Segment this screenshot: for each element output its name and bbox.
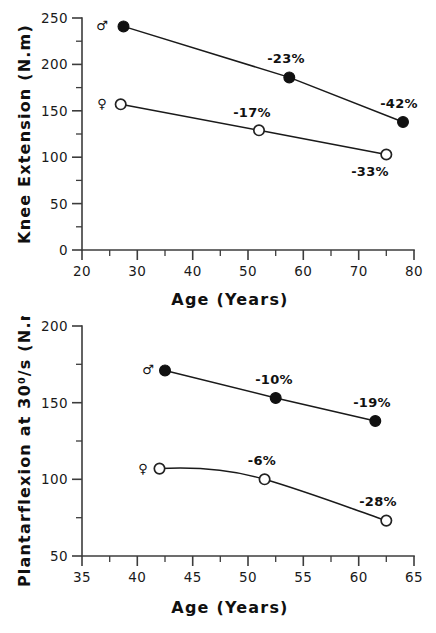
male-data-point xyxy=(160,365,171,376)
y-axis-title-post: /s (N.m) xyxy=(15,316,34,376)
x-tick-label: 40 xyxy=(128,569,146,585)
y-axis-minor-ticks xyxy=(76,41,82,227)
y-tick-label: 150 xyxy=(41,103,68,119)
male-data-point xyxy=(118,21,129,32)
y-tick-label: 100 xyxy=(41,149,68,165)
female-symbol: ♀ xyxy=(138,461,148,476)
y-tick-label: 50 xyxy=(50,196,68,212)
male-point-annotation: -10% xyxy=(255,372,293,387)
y-tick-label: 200 xyxy=(41,56,68,72)
female-point-annotation: -28% xyxy=(359,494,397,509)
x-tick-label: 30 xyxy=(128,263,146,279)
figure-container: 250 200 150 100 50 0 20 30 40 50 60 70 8… xyxy=(0,0,436,633)
y-tick-label: 150 xyxy=(41,395,68,411)
y-tick-label: 50 xyxy=(50,548,68,564)
male-data-point xyxy=(284,72,295,83)
male-data-point xyxy=(398,117,409,128)
male-data-point xyxy=(270,393,281,404)
x-axis-title: Age (Years) xyxy=(171,598,288,617)
female-series-line xyxy=(160,468,387,520)
y-axis-title-superscript: 0 xyxy=(16,376,27,384)
x-axis-major-ticks xyxy=(82,556,414,566)
x-tick-label: 20 xyxy=(73,263,91,279)
x-tick-label: 50 xyxy=(239,263,257,279)
male-point-annotation: -19% xyxy=(353,395,391,410)
male-symbol: ♂ xyxy=(142,362,154,377)
knee-extension-svg: 250 200 150 100 50 0 20 30 40 50 60 70 8… xyxy=(0,0,436,316)
x-tick-label: 80 xyxy=(405,263,423,279)
male-data-point xyxy=(370,416,381,427)
female-data-point xyxy=(154,463,164,473)
x-axis-title: Age (Years) xyxy=(171,290,288,309)
chart-panel-knee-extension: 250 200 150 100 50 0 20 30 40 50 60 70 8… xyxy=(0,0,436,316)
y-tick-label: 250 xyxy=(41,10,68,26)
x-tick-label: 60 xyxy=(350,569,368,585)
y-axis-title: Knee Extension (N.m) xyxy=(15,24,34,244)
x-tick-label: 40 xyxy=(184,263,202,279)
chart-panel-plantarflexion: 200 150 100 50 35 40 45 50 55 60 65 Age … xyxy=(0,316,436,633)
female-data-point xyxy=(116,99,126,109)
y-tick-label: 100 xyxy=(41,471,68,487)
x-tick-label: 45 xyxy=(184,569,202,585)
y-axis-title-pre: Plantarflexion at 30 xyxy=(15,384,34,587)
female-symbol: ♀ xyxy=(97,96,107,111)
female-data-point xyxy=(254,125,264,135)
x-tick-label: 65 xyxy=(405,569,423,585)
y-axis-minor-ticks xyxy=(76,364,82,517)
female-data-point xyxy=(381,515,391,525)
x-tick-label: 35 xyxy=(73,569,91,585)
y-tick-label: 0 xyxy=(59,242,68,258)
y-tick-label: 200 xyxy=(41,318,68,334)
x-tick-label: 50 xyxy=(239,569,257,585)
x-axis-major-ticks xyxy=(82,250,414,260)
female-point-annotation: -33% xyxy=(351,164,389,179)
male-point-annotation: -23% xyxy=(267,51,305,66)
y-axis-title: Plantarflexion at 300/s (N.m) xyxy=(15,316,34,587)
male-symbol: ♂ xyxy=(96,18,108,33)
x-tick-label: 55 xyxy=(294,569,312,585)
female-point-annotation: -17% xyxy=(233,105,271,120)
female-data-point xyxy=(259,474,269,484)
female-data-point xyxy=(381,149,391,159)
plantarflexion-svg: 200 150 100 50 35 40 45 50 55 60 65 Age … xyxy=(0,316,436,633)
x-tick-label: 60 xyxy=(294,263,312,279)
female-point-annotation: -6% xyxy=(248,453,276,468)
x-tick-label: 70 xyxy=(350,263,368,279)
male-point-annotation: -42% xyxy=(380,96,418,111)
